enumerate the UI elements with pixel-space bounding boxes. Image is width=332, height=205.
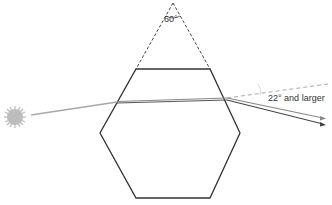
halo-angle-label: 22° and larger — [268, 93, 325, 103]
prism-wedge-dashed — [136, 3, 210, 69]
arrowhead-icon — [320, 116, 326, 121]
refracted-ray-2 — [227, 100, 323, 124]
angle-label: 60° — [164, 14, 178, 24]
incoming-ray — [31, 102, 117, 115]
halo-diagram: 60° 22° and larger — [0, 0, 332, 205]
sun-icon — [4, 106, 26, 128]
hexagon-crystal — [100, 69, 240, 198]
arrowhead-icon — [320, 122, 326, 127]
